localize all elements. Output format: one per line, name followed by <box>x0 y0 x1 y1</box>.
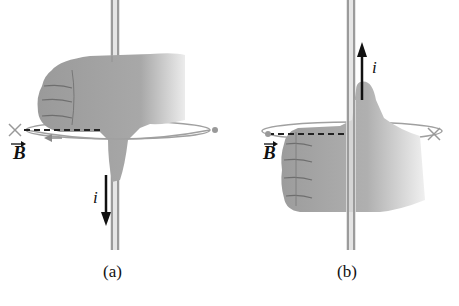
field-label-b: B <box>263 142 276 164</box>
hand-a <box>38 53 186 182</box>
out-of-page-dot-b <box>265 131 271 137</box>
current-arrow-a <box>101 175 111 226</box>
panel-label-b: (b) <box>337 262 357 282</box>
right-hand-rule-diagram <box>0 0 459 306</box>
field-label-a: B <box>13 142 26 164</box>
current-label-a: i <box>93 188 98 208</box>
out-of-page-dot-a <box>212 127 218 133</box>
panel-b <box>262 0 442 250</box>
panel-label-a: (a) <box>103 262 122 282</box>
current-label-b: i <box>372 58 377 78</box>
into-page-cross-a <box>9 124 21 136</box>
panel-a <box>9 0 218 250</box>
